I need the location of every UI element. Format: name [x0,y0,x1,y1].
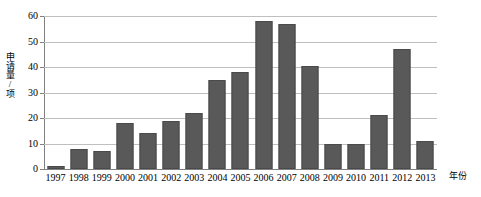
bar-slot [275,16,298,169]
bar-slot [206,16,229,169]
bar-slot [368,16,391,169]
y-tick-mark-0 [40,169,44,170]
bar [301,66,318,169]
x-axis-tick-labels: 1997199819992000200120022003200420052006… [44,172,437,188]
bar [47,166,64,169]
y-tick-label: 20 [8,113,38,123]
bar-slot [229,16,252,169]
y-tick-mark-40 [40,67,44,68]
bar-slot [321,16,344,169]
bar [70,149,87,169]
gridline-0 [44,169,437,170]
bar-slot [90,16,113,169]
y-tick-label: 30 [8,88,38,98]
bar-slot [136,16,159,169]
bar-slot [113,16,136,169]
y-tick-mark-30 [40,93,44,94]
plot-area [44,16,437,169]
y-tick-mark-10 [40,144,44,145]
y-axis-tick-labels: 0102030405060 [0,0,38,197]
bar-slot [183,16,206,169]
bar [371,115,388,169]
bar [209,80,226,169]
bar [186,113,203,169]
y-tick-label: 10 [8,139,38,149]
bar [116,123,133,169]
y-tick-label: 0 [8,164,38,174]
bar [394,49,411,169]
bar-slot [298,16,321,169]
bar-chart-figure: 申请量/项 0102030405060 19971998199920002001… [0,0,481,197]
bar [140,133,157,169]
bar-slot [345,16,368,169]
bar [278,24,295,169]
bar [324,144,341,170]
bar-slot [414,16,437,169]
y-tick-mark-50 [40,42,44,43]
y-tick-mark-60 [40,16,44,17]
bar [348,144,365,170]
bar-slot [44,16,67,169]
bar-slot [252,16,275,169]
x-tick-label: 2013 [405,172,445,184]
bar [163,121,180,169]
bar [255,21,272,169]
bar [232,72,249,169]
y-tick-mark-20 [40,118,44,119]
y-tick-label: 40 [8,62,38,72]
y-tick-label: 50 [8,37,38,47]
bar-slot [160,16,183,169]
y-tick-label: 60 [8,11,38,21]
bar-slot [391,16,414,169]
x-axis-title: 年份 [449,170,467,182]
bar [417,141,434,169]
bar-slot [67,16,90,169]
bar [93,151,110,169]
